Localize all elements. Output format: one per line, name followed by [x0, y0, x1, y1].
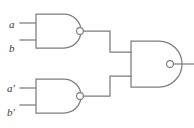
logic-circuit-diagram: a b a′ b′ — [0, 0, 194, 128]
wire-bottom-gate-to-output — [83, 76, 131, 96]
gate-output-inversion-bubble-icon — [167, 61, 174, 68]
label-input-a-prime: a′ — [7, 83, 15, 94]
gate-bottom-body — [36, 79, 81, 113]
label-input-a-prime-mark: ′ — [13, 82, 15, 94]
wire-top-gate-to-output — [83, 31, 131, 52]
circuit-svg — [0, 0, 194, 128]
gate-top-body — [36, 14, 81, 48]
gate-bottom-inversion-bubble-icon — [77, 93, 84, 100]
label-input-b-text: b — [9, 42, 15, 54]
label-input-a-text: a — [9, 18, 15, 30]
label-input-a: a — [9, 19, 15, 30]
label-input-b-prime: b′ — [7, 107, 15, 118]
label-input-b-prime-mark: ′ — [13, 106, 15, 118]
label-input-b: b — [9, 43, 15, 54]
gate-top-inversion-bubble-icon — [77, 28, 84, 35]
